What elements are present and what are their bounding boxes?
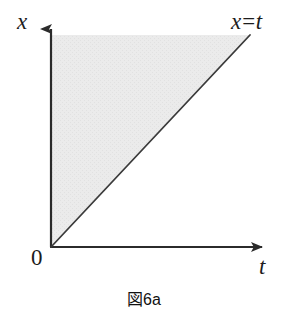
figure-caption: 図6a (0, 286, 288, 310)
axis-label-x: x (17, 10, 27, 33)
figure-container: x t 0 x=t 図6a (0, 0, 288, 324)
origin-label: 0 (31, 246, 43, 269)
line-equation-label: x=t (231, 10, 262, 33)
axis-label-t: t (259, 255, 265, 278)
coordinate-plot (0, 0, 288, 324)
